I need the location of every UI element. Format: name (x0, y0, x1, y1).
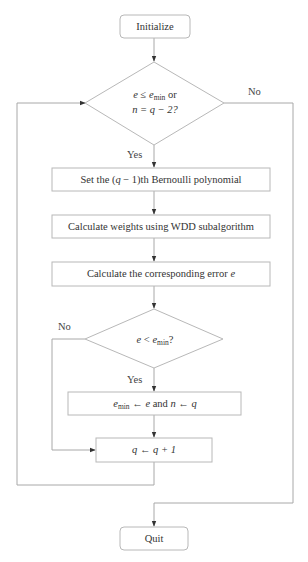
node-initialize-label: Initialize (136, 21, 174, 32)
edge-decision1-no-to-end (154, 103, 293, 526)
step2-label: Calculate weights using WDD subalgorithm (68, 221, 254, 232)
step3-label: Calculate the corresponding error e (87, 268, 235, 279)
node-initialize: Initialize (120, 15, 190, 38)
node-decision-error: e < emin? (85, 309, 223, 368)
node-quit-label: Quit (145, 533, 164, 544)
node-calc-weights: Calculate weights using WDD subalgorithm (52, 215, 270, 238)
edge-label-d1-yes: Yes (127, 149, 142, 160)
node-set-bernoulli: Set the (q − 1)th Bernoulli polynomial (52, 168, 270, 191)
edge-step5-loop-to-decision1 (17, 103, 154, 485)
node-decision-convergence: e ≤ emin or n = q − 2? (85, 62, 224, 145)
node-quit: Quit (120, 527, 188, 550)
step1-label: Set the (q − 1)th Bernoulli polynomial (80, 174, 241, 186)
edge-label-d2-no: No (58, 321, 71, 332)
node-calc-error: Calculate the corresponding error e (52, 262, 270, 286)
flowchart: Yes No Yes No Initialize e ≤ emin or n =… (0, 0, 308, 562)
step5-label: q ← q + 1 (132, 444, 176, 455)
node-increment-q: q ← q + 1 (96, 438, 212, 462)
edge-label-d1-no: No (248, 86, 261, 97)
decision1-line2: n = q − 2? (132, 104, 178, 115)
edge-label-d2-yes: Yes (127, 374, 142, 385)
node-update-min: emin ← e and n ← q (68, 392, 241, 415)
